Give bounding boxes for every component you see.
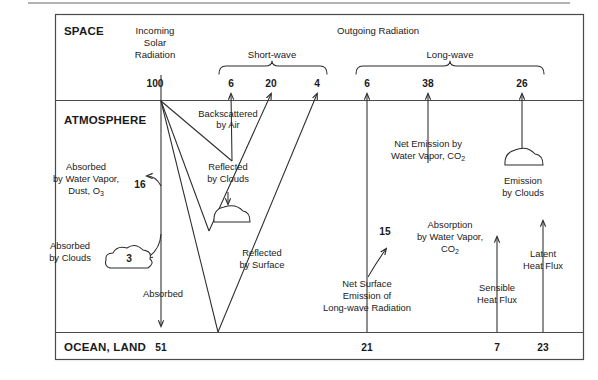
brace-label-short-wave: Short-wave [248,49,297,60]
diagram-canvas: SPACE ATMOSPHERE OCEAN, LAND Incoming So… [0,0,598,380]
long-wave-brace [356,61,544,74]
zone-title-ocean-land: OCEAN, LAND [64,341,146,353]
label-reflected-by-clouds-line1: Reflected [208,161,248,172]
label-absorbed-water-vapor-line3: Dust, O3 [68,185,104,197]
label-absorption-line1: Absorption [428,219,473,230]
absorption-water-vapor-co2-arrow [368,249,386,277]
value-net-emission-water-vapor-co2: 38 [422,78,434,89]
label-absorption-line2: by Water Vapor, [417,231,483,242]
reflected-by-clouds-in [161,101,209,231]
label-reflected-by-clouds-line2: by Clouds [207,173,249,184]
label-reflected-by-surface-line1: Reflected [242,247,282,258]
label-reflected-by-surface-line2: by Surface [240,259,285,270]
label-net-surface-emission-line1: Net Surface [342,278,392,289]
label-sensible-heat-flux-line2: Heat Flux [477,294,517,305]
value-backscattered-by-air: 6 [228,78,234,89]
reflecting-cloud-shape [214,206,250,222]
label-absorption-line3: CO2 [441,243,459,255]
incoming-solar-radiation-header-line1: Incoming [136,25,175,36]
label-net-surface-emission-line3: Long-wave Radiation [323,302,411,313]
label-backscattered-by-air-line2: by Air [216,119,239,130]
label-absorbed-water-vapor-line1: Absorbed [66,161,106,172]
outgoing-radiation-header: Outgoing Radiation [337,25,419,36]
label-absorbed-by-clouds-line1: Absorbed [50,240,90,251]
label-net-emission-line2: Water Vapor, CO2 [391,150,465,162]
value-net-surface-emission: 21 [361,342,373,353]
label-emission-by-clouds-line2: by Clouds [502,187,544,198]
label-latent-heat-flux-line2: Heat Flux [523,260,563,271]
label-absorbed: Absorbed [143,288,183,299]
value-absorbed-water-vapor-dust-o3: 16 [134,179,146,190]
absorbed-water-vapor-arrow [147,176,161,186]
label-net-surface-emission-line2: Emission of [343,290,392,301]
brace-label-long-wave: Long-wave [427,49,474,60]
earth-radiation-budget-diagram: SPACE ATMOSPHERE OCEAN, LAND Incoming So… [0,0,598,380]
value-absorbed-by-clouds: 3 [126,253,132,264]
emitting-cloud-shape [505,148,543,165]
label-emission-by-clouds-line1: Emission [504,175,542,186]
value-emission-by-clouds: 26 [516,78,528,89]
zone-title-space: SPACE [64,25,104,37]
value-latent-heat-flux: 23 [537,342,549,353]
value-net-surface-emission-out: 6 [364,78,370,89]
value-sensible-heat-flux: 7 [494,342,500,353]
label-latent-heat-flux-line1: Latent [530,248,556,259]
label-net-emission-line1: Net Emission by [394,138,462,149]
zone-title-atmosphere: ATMOSPHERE [64,114,146,126]
label-backscattered-by-air-line1: Backscattered [198,108,257,119]
short-wave-brace [219,61,327,74]
incoming-solar-radiation-header-line2: Solar [144,37,167,48]
value-reflected-by-clouds: 20 [265,78,277,89]
label-sensible-heat-flux-line1: Sensible [479,282,515,293]
value-reflected-by-surface: 4 [314,78,320,89]
label-absorbed-by-clouds-line2: by Clouds [49,252,91,263]
value-absorbed-surface: 51 [155,342,167,353]
label-absorbed-water-vapor-line2: by Water Vapor, [53,173,119,184]
incoming-solar-radiation-header-line3: Radiation [135,49,176,60]
value-absorption-water-vapor-co2: 15 [379,226,391,237]
